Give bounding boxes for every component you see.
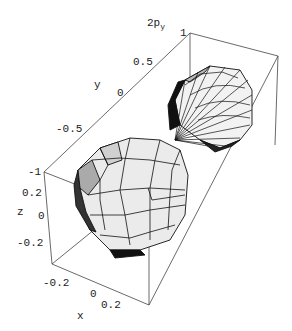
z-tick-neg0.2: -0.2 [17,238,43,249]
y-tick-1: 1 [180,28,187,39]
z-tick-0: 0 [38,211,45,222]
y-tick-neg0.5: -0.5 [56,124,82,135]
x-axis-label: x [77,311,84,322]
y-tick-0: 0 [117,88,124,99]
title-main: 2p [147,17,160,29]
x-tick-0: 0 [90,289,97,300]
x-tick-0.2: 0.2 [101,300,121,311]
plot-title: 2py [147,18,165,31]
y-tick-neg1: -1 [28,167,41,178]
y-tick-0.5: 0.5 [133,57,153,68]
positive-y-lobe [168,66,252,152]
negative-y-lobe [74,138,188,258]
title-subscript: y [160,22,165,31]
z-tick-0.2: 0.2 [22,188,42,199]
y-axis-label: y [94,80,101,91]
z-axis-label: z [17,207,24,218]
x-tick-neg0.2: -0.2 [43,278,69,289]
